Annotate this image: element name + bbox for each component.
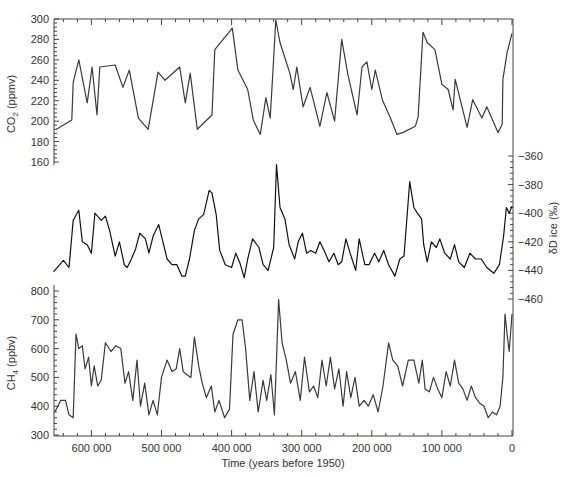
y-tick-label: 600 [31, 343, 49, 355]
y-tick-label: −400 [518, 207, 543, 219]
y-tick-label: 220 [31, 95, 49, 107]
deltaD-axis-title: δD ice (‰) [547, 202, 559, 255]
co2-series-line [56, 20, 512, 134]
y-tick-label: 800 [31, 285, 49, 297]
y-tick-label: 500 [31, 371, 49, 383]
x-tick-label: 200 000 [352, 442, 392, 454]
x-tick-label: 300 000 [282, 442, 322, 454]
y-tick-label: 300 [31, 13, 49, 25]
deltaD-series-line [54, 165, 513, 278]
y-tick-label: 400 [31, 400, 49, 412]
x-tick-label: 500 000 [142, 442, 182, 454]
y-tick-label: 260 [31, 54, 49, 66]
ch4-axis-title: CH4 (ppbv) [5, 336, 20, 391]
y-tick-label: 700 [31, 314, 49, 326]
x-tick-label: 400 000 [212, 442, 252, 454]
y-tick-label: 280 [31, 33, 49, 45]
co2-panel: 160180200220240260280300 CO2 (ppmv) [5, 13, 513, 168]
y-tick-label: −380 [518, 179, 543, 191]
y-tick-label: −360 [518, 150, 543, 162]
y-tick-label: 180 [31, 136, 49, 148]
y-tick-label: −420 [518, 236, 543, 248]
y-tick-label: 160 [31, 156, 49, 168]
co2-y-ticks: 160180200220240260280300 [31, 13, 59, 168]
y-tick-label: 200 [31, 115, 49, 127]
ch4-series-line [55, 300, 512, 418]
ch4-panel: 300400500600700800 CH4 (ppbv) [5, 285, 512, 441]
y-tick-label: 300 [31, 429, 49, 441]
y-tick-label: −460 [518, 293, 543, 305]
x-tick-label: 0 [509, 442, 515, 454]
x-axis-title: Time (years before 1950) [221, 457, 344, 469]
ch4-y-ticks: 300400500600700800 [31, 285, 59, 441]
y-tick-label: −440 [518, 264, 543, 276]
y-tick-label: 240 [31, 74, 49, 86]
ice-core-chart: 160180200220240260280300 CO2 (ppmv) −360… [0, 0, 569, 477]
x-tick-label: 600 000 [72, 442, 112, 454]
co2-axis-title: CO2 (ppmv) [5, 75, 20, 133]
x-tick-label: 100 000 [422, 442, 462, 454]
